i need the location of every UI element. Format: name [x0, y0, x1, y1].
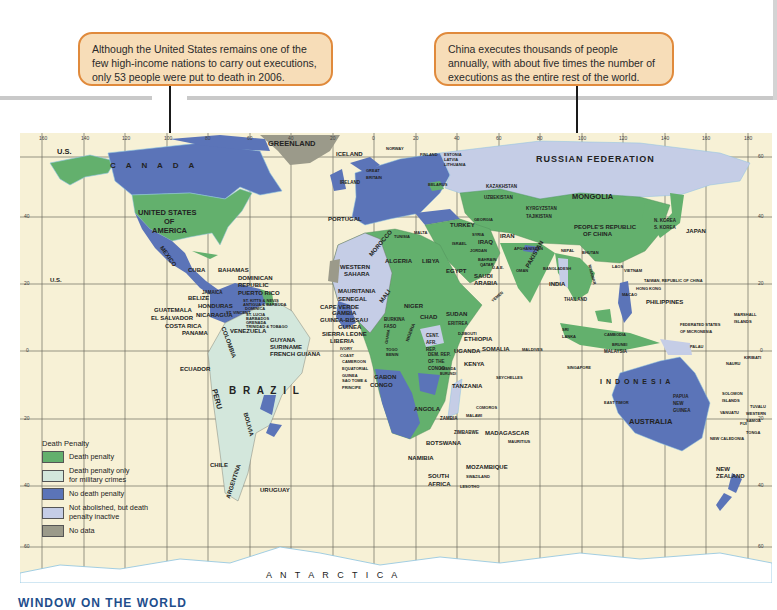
label-chile: CHILE: [210, 462, 228, 469]
label-algeria: ALGERIA: [385, 258, 412, 265]
label-lesotho: LESOTHO: [460, 483, 479, 490]
label-egypt: EGYPT: [446, 268, 466, 275]
legend-label: Not abolished, but death penalty inactiv…: [69, 504, 159, 521]
label-israel: ISRAEL: [452, 240, 467, 247]
lon-tick: 100: [578, 135, 586, 141]
label-singapore: SINGAPORE: [567, 364, 591, 371]
legend-swatch: [42, 507, 64, 519]
divider-right: [187, 96, 777, 100]
label-seychelles: SEYCHELLES: [496, 374, 523, 381]
label-brazil: B R A Z I L: [229, 385, 301, 396]
legend-item-no-data: No data: [42, 525, 172, 537]
label-new-zealand-2: ZEALAND: [716, 473, 745, 480]
lat-tick: 20: [24, 280, 30, 286]
label-guyana: GUYANA: [270, 337, 295, 344]
label-japan: JAPAN: [686, 228, 706, 235]
label-kenya: KENYA: [464, 361, 484, 368]
label-zimbabwe: ZIMBABWE: [454, 429, 479, 436]
label-car: CENT. AFR. REP.: [426, 332, 446, 353]
legend-item-no-death-penalty: No death penalty: [42, 488, 172, 500]
lon-tick: 100: [164, 135, 172, 141]
label-dominican: DOMINICAN REPUBLIC: [238, 275, 288, 289]
label-comoros: COMOROS: [476, 404, 497, 411]
label-greenland: GREENLAND: [268, 140, 316, 149]
legend-swatch: [42, 525, 64, 537]
lon-tick: 20: [413, 135, 419, 141]
label-indonesia: I N D O N E S I A: [600, 378, 671, 387]
legend-label: No data: [69, 527, 95, 536]
label-belarus: BELARUS: [428, 181, 447, 188]
label-bhutan: BHUTAN: [582, 249, 599, 256]
label-burundi: BURUNDI: [440, 371, 456, 378]
lon-tick: 180: [744, 135, 752, 141]
divider-left: [0, 96, 152, 100]
lat-tick: 20: [24, 415, 30, 421]
label-south-africa-1: SOUTH: [428, 473, 449, 480]
label-iceland: ICELAND: [336, 151, 363, 158]
lon-tick: 60: [247, 135, 253, 141]
label-guatemala: GUATEMALA: [154, 307, 192, 314]
lat-tick: 40: [24, 213, 30, 219]
label-western-sahara-2: SAHARA: [344, 271, 370, 278]
label-ethiopia: ETHIOPIA: [464, 336, 492, 343]
lat-tick: 60: [758, 153, 764, 159]
label-china-2: OF CHINA: [583, 231, 612, 238]
label-sri-lanka: SRI LANKA: [562, 326, 576, 340]
label-india: INDIA: [549, 281, 565, 288]
label-kiribati: KIRIBATI: [744, 354, 761, 361]
legend-swatch: [42, 451, 64, 463]
legend-swatch: [42, 470, 64, 482]
legend-label: Death penalty: [69, 453, 114, 462]
label-somalia: SOMALIA: [482, 346, 510, 353]
label-belize: BELIZE: [188, 295, 209, 302]
label-micronesia: FEDERATED STATES OF MICRONESIA: [680, 321, 722, 335]
label-maldives: MALDIVES: [522, 346, 543, 353]
label-south-africa-2: AFRICA: [428, 481, 451, 488]
lon-tick: 120: [122, 135, 130, 141]
label-vietnam: VIETNAM: [624, 267, 642, 274]
label-panama: PANAMA: [182, 330, 208, 337]
label-australia: AUSTRALIA: [629, 418, 672, 427]
label-hong-kong: HONG KONG: [636, 285, 661, 292]
label-fiji: FIJI: [740, 420, 747, 427]
label-el-salvador: EL SALVADOR: [151, 315, 193, 322]
lon-tick: 0: [372, 135, 375, 141]
section-title: WINDOW ON THE WORLD: [18, 596, 187, 610]
lon-tick: 120: [619, 135, 627, 141]
label-namibia: NAMIBIA: [408, 455, 434, 462]
lon-tick: 80: [537, 135, 543, 141]
lat-tick: 0: [26, 347, 29, 353]
legend-label: No death penalty: [69, 490, 124, 499]
label-new-caledonia: NEW CALEDONIA: [710, 435, 744, 442]
label-senegal: SENEGAL: [338, 296, 367, 303]
legend-swatch: [42, 488, 64, 500]
lat-tick: 40: [24, 482, 30, 488]
label-puerto-rico: PUERTO RICO: [238, 290, 280, 297]
label-ivory-coast: IVORY COAST: [340, 345, 360, 359]
label-canada: C A N A D A: [110, 160, 198, 171]
label-bangladesh: BANGLADESH: [543, 265, 571, 272]
label-alaska: U.S.: [57, 148, 72, 157]
lon-tick: 160: [702, 135, 710, 141]
label-syria: SYRIA: [472, 231, 484, 238]
label-malta: MALTA: [414, 229, 427, 236]
lat-tick: 60: [24, 543, 30, 549]
legend-item-inactive: Not abolished, but death penalty inactiv…: [42, 504, 172, 521]
label-sierra-leone: SIERRA LEONE: [322, 331, 367, 338]
label-brunei: BRUNEI: [612, 341, 627, 348]
lon-tick: 60: [496, 135, 502, 141]
label-antarctica: A N T A R C T I C A: [266, 571, 400, 580]
label-taiwan: TAIWAN, REPUBLIC OF CHINA: [644, 277, 703, 284]
label-hawaii: U.S.: [50, 277, 62, 284]
label-zambia: ZAMBIA: [440, 415, 458, 422]
label-ireland: IRELAND: [340, 179, 360, 186]
label-uganda: UGANDA: [454, 348, 480, 355]
legend-item-military: Death penalty only for military crimes: [42, 467, 172, 484]
lon-tick: 140: [661, 135, 669, 141]
label-uae: U.A.E.: [492, 264, 504, 271]
label-png: PAPUA NEW GUINEA: [673, 393, 699, 414]
label-chad: CHAD: [420, 314, 437, 321]
legend-label: Death penalty only for military crimes: [69, 467, 139, 484]
label-nauru: NAURU: [726, 360, 740, 367]
lat-tick: 60: [758, 543, 764, 549]
